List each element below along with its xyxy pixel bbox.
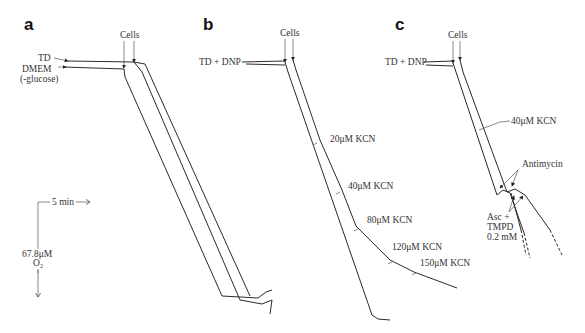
trace-b-start	[242, 61, 285, 62]
td-label: TD	[38, 53, 51, 63]
trace-c-start	[424, 61, 453, 62]
trace-td-edge	[134, 62, 250, 296]
kcn-40-label-c: 40μM KCN	[511, 116, 557, 126]
panel-c-label: c	[395, 15, 404, 34]
kcn-80-label: 80μM KCN	[367, 215, 413, 225]
antimycin-label: Antimycin	[522, 159, 563, 169]
kcn-20-label: 20μM KCN	[330, 134, 376, 144]
tick-mark	[336, 192, 340, 194]
tick-mark	[388, 262, 392, 264]
time-scale-label: 5 min	[52, 197, 74, 207]
trace-b-control	[285, 62, 390, 320]
oxygen-consumption-figure: a Cells TD DMEM (-glucose) b Cells TD + …	[0, 0, 585, 333]
tick-mark	[313, 143, 317, 145]
tick-mark	[354, 229, 358, 231]
cells-label-b: Cells	[280, 28, 300, 38]
trace-dmem	[64, 67, 272, 298]
trace-c-asc-1-dash	[524, 233, 530, 258]
tmpd-label: TMPD	[487, 222, 514, 232]
panel-b-label: b	[203, 15, 213, 34]
dmem-sub-label: (-glucose)	[20, 74, 59, 85]
trace-c-right	[460, 60, 525, 195]
td-dnp-label-b: TD + DNP	[199, 57, 241, 67]
panel-a-label: a	[24, 15, 34, 34]
trace-c-asc-3	[525, 195, 550, 230]
trace-c-asc-3-dash	[550, 230, 562, 255]
trace-c-asc-2-dash	[521, 230, 526, 255]
kcn-40-label: 40μM KCN	[348, 181, 394, 191]
dmem-label: DMEM	[22, 64, 52, 74]
kcn-150-label: 150μM KCN	[420, 258, 470, 268]
cells-label-a: Cells	[120, 30, 140, 40]
scale-bars: 5 min 67.8μM O2	[18, 197, 90, 297]
asc-label: Asc +	[487, 212, 510, 222]
kcn-120-label: 120μM KCN	[392, 242, 442, 252]
trace-c-start-2	[426, 65, 453, 66]
trace-b-start-2	[246, 64, 285, 65]
trace-b-kcn	[293, 60, 457, 288]
conc-label: 0.2 mM	[487, 232, 518, 242]
cells-label-c: Cells	[448, 30, 468, 40]
tick-mark	[412, 273, 416, 275]
td-arrow-icon	[54, 58, 68, 61]
td-dnp-label-c: TD + DNP	[385, 57, 427, 67]
antimycin-arrow-icon	[512, 170, 518, 186]
